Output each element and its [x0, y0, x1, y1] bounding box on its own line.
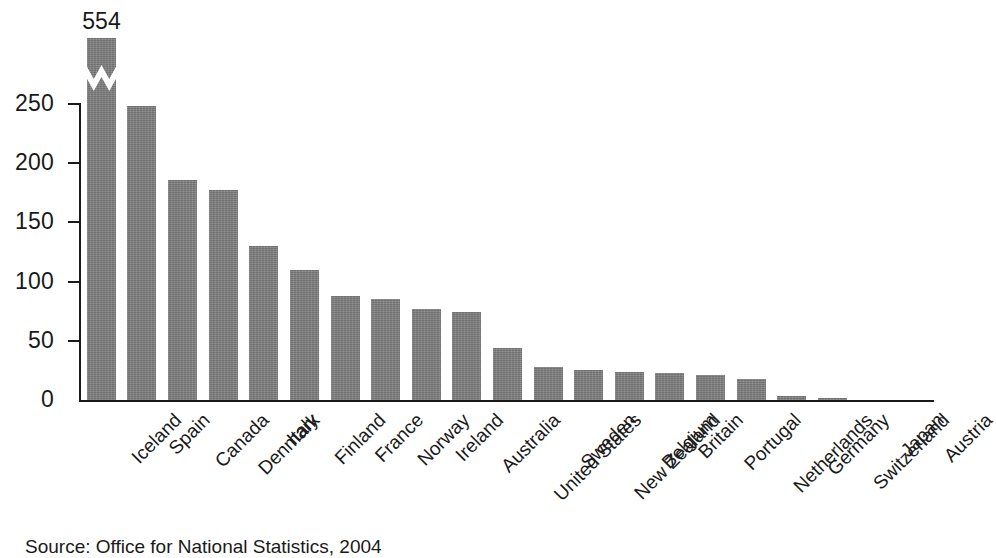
y-tick-label: 100: [0, 270, 54, 293]
axis-break-zigzag: [86, 55, 117, 93]
y-tick-mark: [68, 221, 81, 223]
bars-group: 554: [81, 0, 936, 402]
bar: [412, 309, 441, 400]
y-tick-mark: [68, 103, 81, 105]
bar: [574, 370, 603, 400]
bar: [534, 367, 563, 400]
bar: [168, 180, 197, 400]
y-tick-mark: [68, 162, 81, 164]
bar: [696, 375, 725, 400]
bar: [615, 372, 644, 400]
source-note: Source: Office for National Statistics, …: [25, 536, 382, 558]
x-axis-label: Portugal: [740, 410, 803, 473]
x-axis-label: Sweden: [577, 410, 639, 472]
x-axis-label: Australia: [498, 410, 564, 476]
bar: [737, 379, 766, 400]
y-tick-label: 250: [0, 92, 54, 115]
bar: [777, 396, 806, 400]
bar: [290, 270, 319, 400]
bar: [331, 296, 360, 400]
bar: [655, 373, 684, 400]
bar: [209, 190, 238, 400]
y-tick-label: 50: [0, 329, 54, 352]
bar: [493, 348, 522, 400]
y-tick-label: 0: [0, 388, 54, 411]
bar: [371, 299, 400, 400]
bar-value-label: 554: [57, 10, 146, 33]
y-tick-mark: [68, 340, 81, 342]
y-tick-label: 150: [0, 210, 54, 233]
bar: [249, 246, 278, 400]
bar: [127, 106, 156, 400]
bar: [818, 398, 847, 400]
bar: [452, 312, 481, 400]
y-tick-mark: [68, 281, 81, 283]
y-tick-label: 200: [0, 151, 54, 174]
